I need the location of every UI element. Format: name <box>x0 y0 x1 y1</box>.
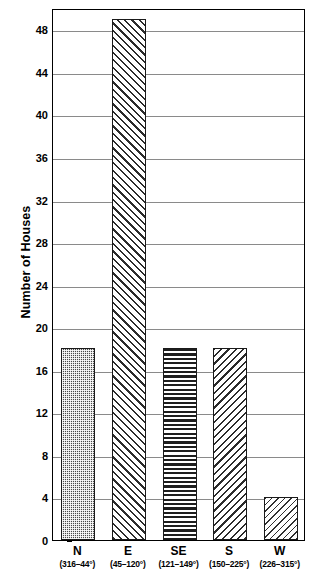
x-axis-degree-range-label: (226–315°) <box>254 558 305 570</box>
x-axis-tick-labels: N(316–44°)E(45–120°)SE(121–149°)S(150–22… <box>52 545 305 575</box>
y-axis-tick-label: 0 <box>20 536 48 547</box>
y-axis-tick-label: 12 <box>20 408 48 419</box>
bar-se <box>163 348 197 540</box>
bar-s <box>213 348 247 540</box>
y-axis-tick-label: 4 <box>20 493 48 504</box>
x-axis-label-group-w: W(226–315°) <box>254 545 305 570</box>
y-axis-tick-label: 32 <box>20 195 48 206</box>
bars-layer <box>53 10 304 540</box>
x-axis-degree-range-label: (45–120°) <box>103 558 154 570</box>
y-axis-tick-label: 24 <box>20 280 48 291</box>
x-axis-category-label: W <box>254 545 305 558</box>
bar-n <box>61 348 95 540</box>
x-axis-degree-range-label: (121–149°) <box>153 558 204 570</box>
plot-area <box>52 9 305 541</box>
x-axis-label-group-n: N(316–44°) <box>52 545 103 570</box>
y-axis-tick-labels: 04812162024283236404448 <box>20 0 48 575</box>
y-axis-tick-label: 28 <box>20 238 48 249</box>
x-axis-label-group-e: E(45–120°) <box>103 545 154 570</box>
x-axis-degree-range-label: (316–44°) <box>52 558 103 570</box>
y-axis-tick-label: 40 <box>20 110 48 121</box>
x-axis-degree-range-label: (150–225°) <box>204 558 255 570</box>
x-axis-category-label: SE <box>153 545 204 558</box>
y-axis-tick-label: 48 <box>20 25 48 36</box>
bar-e <box>112 19 146 540</box>
y-axis-tick-label: 36 <box>20 152 48 163</box>
x-axis-category-label: E <box>103 545 154 558</box>
y-axis-tick-label: 44 <box>20 67 48 78</box>
x-axis-label-group-s: S(150–225°) <box>204 545 255 570</box>
y-axis-tick-mark <box>67 541 72 542</box>
y-axis-tick-label: 8 <box>20 450 48 461</box>
x-axis-category-label: S <box>204 545 255 558</box>
y-axis-tick-label: 16 <box>20 365 48 376</box>
x-axis-label-group-se: SE(121–149°) <box>153 545 204 570</box>
bar-w <box>264 497 298 540</box>
x-axis-category-label: N <box>52 545 103 558</box>
bar-chart-figure: Number of Houses 04812162024283236404448… <box>0 0 319 575</box>
y-axis-tick-label: 20 <box>20 323 48 334</box>
